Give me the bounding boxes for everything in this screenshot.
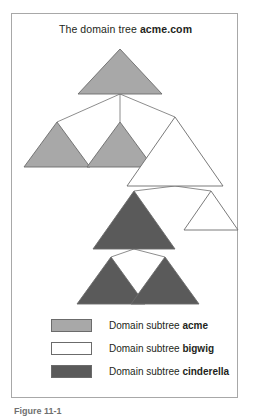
tree-edge bbox=[175, 186, 211, 191]
legend-label-acme: Domain subtree acme bbox=[109, 320, 208, 331]
figure-frame: The domain tree acme.com Domain subtree … bbox=[11, 13, 238, 398]
cinderella-swatch bbox=[51, 365, 92, 378]
subtree-triangle-acme bbox=[78, 49, 162, 94]
acme-swatch bbox=[51, 319, 92, 332]
tree-edge bbox=[57, 94, 120, 122]
domain-tree-diagram bbox=[12, 14, 239, 324]
tree-edge bbox=[120, 94, 175, 117]
figure-caption: Figure 11-1 bbox=[14, 406, 62, 419]
legend-item-cinderella: Domain subtree cinderella bbox=[12, 360, 239, 383]
subtree-triangle-cinderella bbox=[131, 257, 199, 304]
legend-label-cinderella: Domain subtree cinderella bbox=[109, 366, 229, 377]
tree-node-group bbox=[24, 49, 238, 304]
legend-label-bigwig: Domain subtree bigwig bbox=[109, 343, 214, 354]
tree-edge bbox=[111, 249, 134, 257]
subtree-triangle-cinderella bbox=[77, 257, 145, 304]
subtree-triangle-acme bbox=[87, 122, 153, 167]
bigwig-swatch bbox=[51, 342, 92, 355]
legend-item-bigwig: Domain subtree bigwig bbox=[12, 337, 239, 360]
tree-edge bbox=[134, 186, 175, 191]
tree-edge bbox=[134, 249, 165, 257]
subtree-triangle-acme bbox=[24, 122, 90, 167]
subtree-triangle-bigwig bbox=[184, 191, 238, 230]
subtree-triangle-cinderella bbox=[93, 191, 175, 249]
legend: Domain subtree acme Domain subtree bigwi… bbox=[12, 314, 239, 383]
legend-item-acme: Domain subtree acme bbox=[12, 314, 239, 337]
